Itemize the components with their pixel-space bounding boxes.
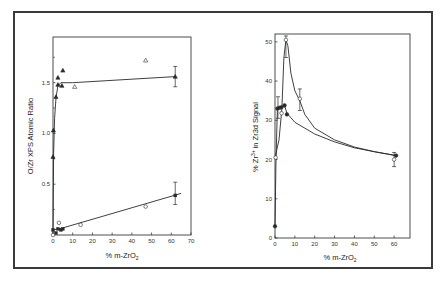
x-tick-label: 20 <box>311 241 318 247</box>
x-tick-label: 50 <box>371 241 378 247</box>
square-marker <box>61 227 64 230</box>
circle-marker <box>280 111 284 115</box>
right-data-points <box>273 36 398 228</box>
x-tick-label: 60 <box>391 241 398 247</box>
circle-marker <box>57 221 61 225</box>
square-marker <box>174 194 177 197</box>
x-tick-label: 20 <box>89 238 96 244</box>
x-tick-label: 0 <box>51 238 55 244</box>
x-tick-label: 30 <box>109 238 116 244</box>
circle-marker <box>392 158 396 162</box>
circle-marker <box>144 205 148 209</box>
y-tick-label: 50 <box>265 39 272 45</box>
x-tick-label: 40 <box>129 238 136 244</box>
y-tick-label: 0 <box>269 235 273 241</box>
fit-curve <box>275 40 396 158</box>
x-tick-label: 40 <box>351 241 358 247</box>
y-tick-label: 20 <box>265 157 272 163</box>
triangle-marker <box>61 68 65 72</box>
triangle-marker <box>56 75 60 79</box>
circle-marker <box>273 224 277 228</box>
y-tick-label: 0.5 <box>42 181 51 187</box>
left-fit-curves <box>53 77 181 235</box>
triangle-marker <box>73 85 77 89</box>
y-tick-label: 40 <box>265 78 272 84</box>
y-tick-label: 1.0 <box>42 130 51 136</box>
left-x-axis-label: % m-ZrO2 <box>105 251 138 261</box>
circle-marker <box>79 223 83 227</box>
circle-marker <box>274 156 278 160</box>
left-chart: 0102030405060700.51.01.5 O/Zr XPS Atomic… <box>26 37 195 261</box>
circle-marker <box>394 154 398 158</box>
circle-marker <box>283 104 287 108</box>
left-data-points <box>51 58 177 237</box>
fit-curve <box>53 77 175 235</box>
triangle-marker <box>60 84 64 88</box>
y-tick-label: 10 <box>265 196 272 202</box>
x-tick-label: 50 <box>148 238 155 244</box>
triangle-marker <box>144 58 148 62</box>
x-tick-label: 60 <box>168 238 175 244</box>
circle-marker <box>51 233 55 237</box>
circle-marker <box>285 113 289 117</box>
y-tick-label: 1.5 <box>42 80 51 86</box>
triangle-marker <box>51 128 55 132</box>
left-y-axis-label: O/Zr XPS Atomic Ratio <box>26 98 35 174</box>
x-tick-label: 0 <box>273 241 277 247</box>
right-fit-curves <box>275 40 396 226</box>
right-chart: 010203040506001020304050 % Zr3+ in Zr3d … <box>250 34 410 263</box>
x-tick-label: 30 <box>331 241 338 247</box>
y-tick-label: 30 <box>265 117 272 123</box>
right-x-axis-label: % m-ZrO2 <box>323 253 356 263</box>
circle-marker <box>298 97 302 101</box>
triangle-marker <box>54 95 58 99</box>
right-plot-frame <box>275 34 410 238</box>
fit-curve <box>275 105 396 226</box>
left-plot-frame <box>53 37 191 235</box>
fit-curve <box>53 193 181 230</box>
square-marker <box>51 228 54 231</box>
figure-canvas: 0102030405060700.51.01.5 O/Zr XPS Atomic… <box>0 0 446 283</box>
square-marker <box>56 227 59 230</box>
circle-marker <box>284 38 288 42</box>
triangle-marker <box>51 155 55 159</box>
x-tick-label: 70 <box>188 238 195 244</box>
right-y-axis-label: % Zr3+ in Zr3d Signal <box>250 102 260 172</box>
right-axis-ticks: 010203040506001020304050 <box>265 39 398 247</box>
x-tick-label: 10 <box>69 238 76 244</box>
x-tick-label: 10 <box>292 241 299 247</box>
left-axis-ticks: 0102030405060700.51.01.5 <box>42 57 195 244</box>
